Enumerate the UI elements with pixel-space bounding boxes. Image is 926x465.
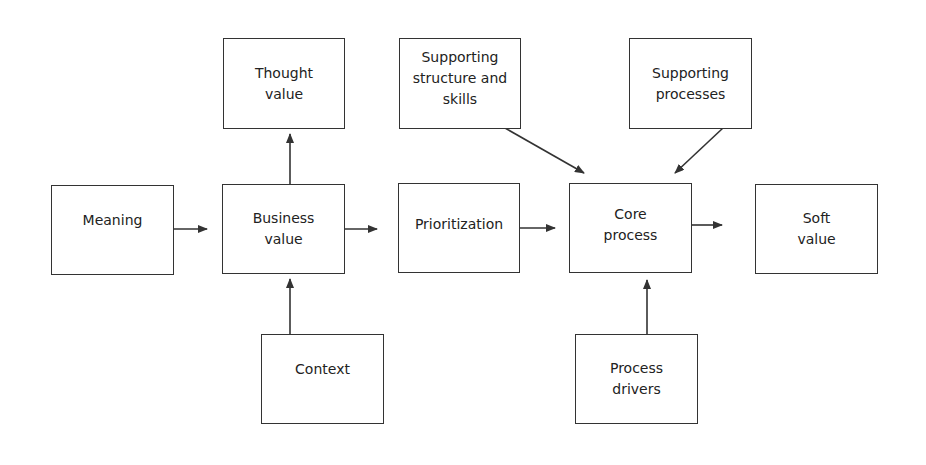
node-process-drivers: Process drivers (575, 334, 698, 424)
node-core-process: Core process (569, 183, 692, 273)
node-thought-value: Thought value (223, 38, 345, 129)
node-label: Core process (604, 204, 658, 246)
arrow-supporting-structure-to-core-process (505, 128, 584, 173)
node-label: Supporting structure and skills (413, 47, 507, 110)
node-soft-value: Soft value (755, 184, 878, 274)
node-supporting-structure-and-skills: Supporting structure and skills (399, 38, 521, 129)
node-label: Context (295, 359, 350, 380)
node-label: Meaning (83, 210, 143, 231)
node-label: Business value (253, 208, 315, 250)
node-label: Soft value (797, 208, 835, 250)
node-label: Prioritization (415, 214, 503, 235)
node-prioritization: Prioritization (398, 183, 520, 273)
node-context: Context (261, 334, 384, 424)
node-business-value: Business value (222, 184, 345, 274)
node-label: Supporting processes (652, 63, 729, 105)
node-supporting-processes: Supporting processes (629, 38, 752, 129)
node-meaning: Meaning (51, 185, 174, 275)
node-label: Process drivers (610, 358, 663, 400)
node-label: Thought value (255, 63, 313, 105)
arrow-supporting-processes-to-core-process (675, 128, 723, 173)
